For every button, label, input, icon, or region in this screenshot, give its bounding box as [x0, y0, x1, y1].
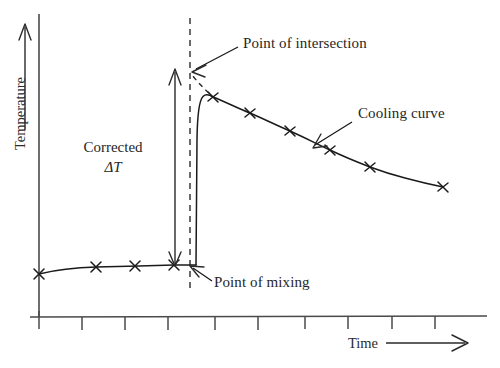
point-of-mixing-leader-line — [193, 268, 212, 281]
point-of-intersection-leader-line — [196, 47, 238, 69]
x-axis-group — [30, 311, 487, 330]
point-of-intersection-label-group: Point of intersection — [192, 35, 367, 77]
cooling-curve-label: Cooling curve — [358, 105, 445, 121]
mixing-rise-curve — [196, 95, 213, 265]
data-marker-x — [285, 126, 295, 136]
cooling-curve-label-group: Cooling curve — [313, 105, 445, 148]
x-axis-label-group: Time — [348, 335, 468, 351]
back-extrapolation-dashed-line — [191, 73, 210, 93]
y-axis-label-group: Temperature — [12, 24, 31, 150]
y-axis-label: Temperature — [12, 77, 28, 150]
data-marker-x — [365, 162, 375, 172]
cooling-curve-figure: Temperature Time — [0, 0, 500, 368]
figure-canvas: Temperature Time — [0, 0, 500, 368]
point-of-mixing-label: Point of mixing — [214, 274, 310, 290]
x-axis-line — [30, 316, 487, 317]
point-of-intersection-label: Point of intersection — [243, 35, 367, 51]
corrected-delta-t-label-group: Corrected ΔT — [83, 139, 143, 175]
delta-t-label: ΔT — [103, 159, 123, 175]
data-marker-x — [208, 92, 218, 102]
data-marker-x — [245, 108, 255, 118]
corrected-label: Corrected — [83, 139, 143, 155]
x-axis-label: Time — [348, 335, 378, 351]
point-of-mixing-label-group: Point of mixing — [190, 266, 310, 290]
corrected-delta-t-measure-arrow — [169, 69, 181, 266]
